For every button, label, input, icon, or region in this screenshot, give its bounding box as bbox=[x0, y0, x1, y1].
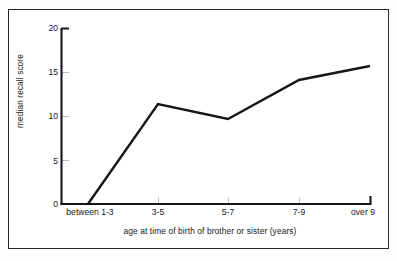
chart-page: median recall score 20 15 10 5 0 between… bbox=[0, 0, 397, 261]
plot-area bbox=[0, 0, 397, 261]
y-axis-ticks bbox=[62, 29, 69, 161]
data-line-median-recall-score bbox=[88, 66, 370, 204]
x-axis-spine bbox=[61, 196, 371, 204]
